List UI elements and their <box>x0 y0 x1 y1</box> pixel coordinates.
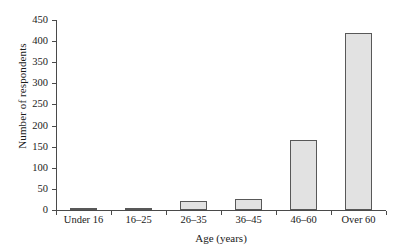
x-tick-label: Over 60 <box>331 213 386 226</box>
bar <box>70 208 98 210</box>
y-tick-label: 450 <box>18 15 48 25</box>
y-tick-label: 400 <box>18 36 48 46</box>
bars-group <box>56 20 386 210</box>
bar <box>345 33 373 210</box>
x-tick-mark <box>386 211 387 215</box>
x-axis-tick-labels: Under 1616–2526–3536–4546–60Over 60 <box>56 213 386 227</box>
y-tick-label: 250 <box>18 99 48 109</box>
bar <box>290 140 318 210</box>
y-tick-label: 200 <box>18 121 48 131</box>
y-tick-label: 350 <box>18 57 48 67</box>
x-tick-label: 26–35 <box>166 213 221 226</box>
bar <box>125 208 153 210</box>
y-tick-label: 150 <box>18 142 48 152</box>
x-tick-label: 46–60 <box>276 213 331 226</box>
y-tick-label: 50 <box>18 184 48 194</box>
plot-area <box>56 20 386 210</box>
x-tick-label: 16–25 <box>111 213 166 226</box>
bar <box>180 201 208 210</box>
y-axis-tick-labels: 050100150200250300350400450 <box>18 0 48 252</box>
x-axis-title: Age (years) <box>56 231 386 245</box>
y-tick-label: 100 <box>18 163 48 173</box>
x-tick-label: 36–45 <box>221 213 276 226</box>
y-tick-label: 300 <box>18 78 48 88</box>
bar-chart: Number of respondents 050100150200250300… <box>0 0 403 252</box>
y-tick-label: 0 <box>18 205 48 215</box>
bar <box>235 199 263 210</box>
x-tick-label: Under 16 <box>56 213 111 226</box>
